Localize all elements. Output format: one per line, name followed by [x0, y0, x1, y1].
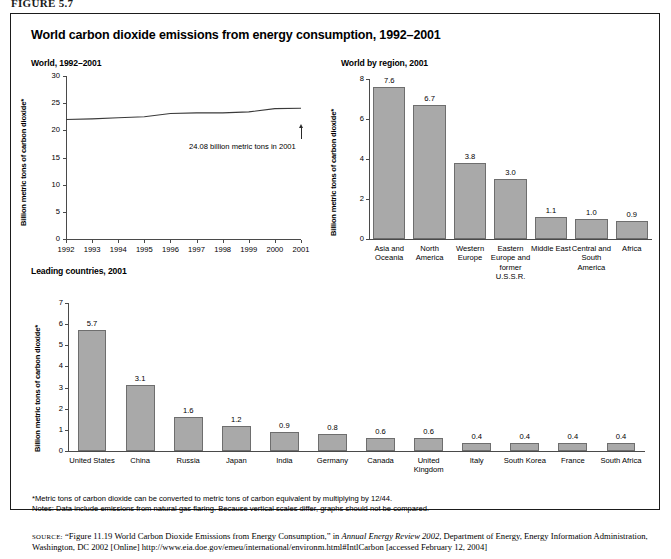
country-bar-value: 0.9 [266, 421, 302, 430]
country-y-tick [65, 409, 68, 410]
region-bar-value: 1.1 [533, 206, 569, 215]
footnotes: *Metric tons of carbon dioxide can be co… [32, 494, 429, 515]
region-y-tick [366, 239, 369, 240]
country-bar [318, 434, 347, 451]
country-y-tick-label: 4 [47, 362, 63, 370]
region-bar-value: 0.9 [614, 210, 650, 219]
country-bar [78, 330, 107, 451]
y-tick-label: 5 [44, 208, 60, 216]
source-italic-title: Annual Energy Review 2002 [341, 531, 439, 541]
region-category-label: Asia and Oceania [367, 244, 411, 263]
x-tick-label: 1995 [130, 245, 158, 254]
region-category-label: North America [407, 244, 451, 263]
region-y-tick [366, 119, 369, 120]
country-category-label: Canada [355, 456, 407, 465]
region-category-label: Eastern Europe and former U.S.S.R. [488, 244, 532, 282]
y-axis-label-line: Billion metric tons of carbon dioxide* [19, 76, 28, 226]
country-y-tick [65, 451, 68, 452]
region-bar-value: 3.8 [452, 152, 488, 161]
world-emissions-line [66, 76, 305, 243]
country-y-tick-label: 1 [47, 426, 63, 434]
x-tick-label: 1994 [104, 245, 132, 254]
region-category-label: Central and South America [569, 244, 613, 272]
figure-frame: World carbon dioxide emissions from ener… [10, 13, 660, 510]
panel-title-countries: Leading countries, 2001 [31, 266, 127, 276]
x-tick-label: 1997 [183, 245, 211, 254]
region-bar [494, 179, 526, 239]
y-tick-label: 20 [44, 126, 60, 134]
country-category-label: Germany [306, 456, 358, 465]
country-bar [558, 443, 587, 451]
country-y-tick [65, 366, 68, 367]
footnote-notes: Notes: Data include emissions from natur… [32, 504, 429, 514]
country-bar-value: 3.1 [122, 374, 158, 383]
region-category-label: Middle East [529, 244, 573, 253]
country-y-tick [65, 430, 68, 431]
country-y-tick [65, 345, 68, 346]
y-axis-label-countries: Billion metric tons of carbon dioxide* [33, 302, 42, 452]
region-bar-value: 1.0 [573, 208, 609, 217]
country-y-tick [65, 388, 68, 389]
country-y-tick-label: 6 [47, 320, 63, 328]
line-annotation: 24.08 billion metric tons in 2001 [189, 142, 296, 151]
country-bar-value: 0.6 [363, 427, 399, 436]
source-part1: “Figure 11.19 World Carbon Dioxide Emiss… [65, 531, 342, 541]
country-bar-value: 1.2 [218, 415, 254, 424]
country-category-label: United States [66, 456, 118, 465]
y-axis-label-region: Billion metric tons of carbon dioxide* [329, 76, 338, 236]
region-y-tick-label: 8 [348, 75, 364, 83]
region-bar [373, 87, 405, 239]
region-y-tick-label: 6 [348, 115, 364, 123]
country-y-axis [68, 303, 69, 451]
x-tick-label: 1993 [78, 245, 106, 254]
country-category-label: Japan [210, 456, 262, 465]
country-y-tick-label: 5 [47, 341, 63, 349]
country-bar [607, 443, 636, 451]
region-y-tick [366, 199, 369, 200]
country-y-tick-label: 2 [47, 405, 63, 413]
country-bar-value: 5.7 [74, 319, 110, 328]
country-bar-value: 0.4 [555, 432, 591, 441]
annotation-arrow-shaft [301, 127, 302, 139]
x-tick-label: 1999 [235, 245, 263, 254]
country-category-label: United Kingdom [403, 456, 455, 475]
country-bar-value: 0.6 [411, 427, 447, 436]
country-bar-value: 1.6 [170, 406, 206, 415]
region-x-axis [369, 239, 652, 240]
country-bar [510, 443, 539, 451]
region-category-label: Africa [610, 244, 654, 253]
country-bar [126, 385, 155, 451]
y-tick-label: 30 [44, 72, 60, 80]
region-y-tick-label: 0 [348, 235, 364, 243]
country-y-tick [65, 303, 68, 304]
y-tick-label: 10 [44, 181, 60, 189]
country-y-tick-label: 0 [47, 447, 63, 455]
y-tick-label: 25 [44, 99, 60, 107]
country-x-axis [68, 451, 645, 452]
footnote-asterisk: *Metric tons of carbon dioxide can be co… [32, 494, 429, 504]
country-category-label: France [547, 456, 599, 465]
region-category-label: Western Europe [448, 244, 492, 263]
region-y-tick [366, 79, 369, 80]
country-bar [414, 438, 443, 451]
region-y-tick-label: 2 [348, 195, 364, 203]
x-tick-label: 2001 [287, 245, 315, 254]
region-y-tick [366, 159, 369, 160]
region-bar [575, 219, 607, 239]
country-bar [366, 438, 395, 451]
country-category-label: Italy [451, 456, 503, 465]
figure-number: FIGURE 5.7 [11, 0, 73, 9]
country-category-label: South Korea [499, 456, 551, 465]
region-bar [616, 221, 648, 239]
region-bar [535, 217, 567, 239]
region-y-tick-label: 4 [348, 155, 364, 163]
y-tick-label: 0 [44, 235, 60, 243]
country-category-label: South Africa [595, 456, 647, 465]
country-bar [462, 443, 491, 451]
country-bar-value: 0.4 [603, 432, 639, 441]
panel-title-region: World by region, 2001 [341, 58, 428, 68]
country-category-label: China [114, 456, 166, 465]
country-bar [222, 426, 251, 451]
country-bar [174, 417, 203, 451]
country-y-tick-label: 7 [47, 299, 63, 307]
